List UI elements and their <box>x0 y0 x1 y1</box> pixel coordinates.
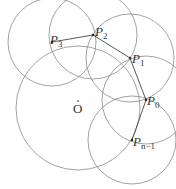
label-p3: P3 <box>50 33 62 49</box>
point-p2 <box>92 34 94 36</box>
label-p0: P0 <box>147 94 159 110</box>
label-p1: P1 <box>132 52 144 68</box>
label-pn1: Pn−1 <box>133 135 155 151</box>
label-center-o: O <box>73 102 82 115</box>
point-p1 <box>129 57 131 59</box>
label-p2: P2 <box>95 25 107 41</box>
